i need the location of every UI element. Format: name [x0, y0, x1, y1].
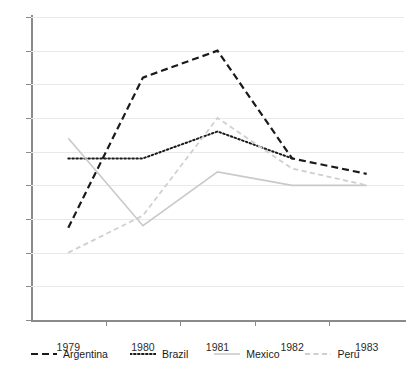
legend-label: Brazil [162, 348, 188, 360]
solid-gray-line-icon [214, 348, 240, 360]
x-axis-tick [255, 320, 256, 326]
legend-item-peru[interactable]: Peru [305, 348, 359, 360]
x-axis-line [31, 320, 406, 322]
legend-item-brazil[interactable]: Brazil [130, 348, 188, 360]
dashed-gray-line-icon [305, 348, 331, 360]
x-axis-tick [180, 320, 181, 326]
series-line-mexico [68, 138, 366, 226]
chart-legend: ArgentinaBrazilMexicoPeru [31, 344, 406, 364]
y-axis-tick [26, 320, 31, 321]
legend-label: Mexico [246, 348, 279, 360]
x-axis-tick [329, 320, 330, 326]
legend-item-mexico[interactable]: Mexico [214, 348, 279, 360]
legend-item-argentina[interactable]: Argentina [31, 348, 108, 360]
series-layer [31, 17, 404, 320]
series-line-argentina [68, 51, 366, 228]
legend-label: Argentina [63, 348, 108, 360]
dashed-dark-line-icon [31, 348, 57, 360]
plot-area: 40455055606570758085 1979198019811982198… [31, 17, 404, 320]
dotted-dark-line-icon [130, 348, 156, 360]
legend-label: Peru [337, 348, 359, 360]
line-chart: 40455055606570758085 1979198019811982198… [0, 0, 412, 369]
x-axis-tick [106, 320, 107, 326]
